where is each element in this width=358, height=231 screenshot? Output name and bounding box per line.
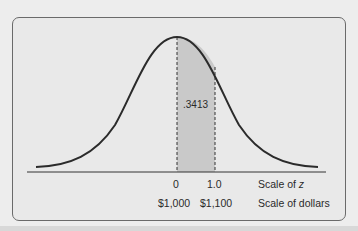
z-variable: z [299,178,304,190]
z-scale-text: Scale of [258,178,299,190]
z-scale-label: Scale of z [258,178,304,190]
dollar-tick-1: $1,100 [200,197,232,209]
dollar-tick-0: $1,000 [158,197,190,209]
z-tick-0: 0 [173,178,179,190]
z-tick-1: 1.0 [207,178,222,190]
area-label: .3413 [183,99,208,110]
dollar-scale-label: Scale of dollars [258,197,330,209]
bottom-divider [0,226,358,231]
